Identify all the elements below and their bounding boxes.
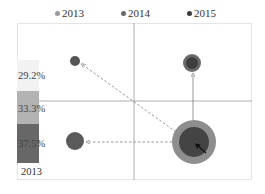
- bar-label-29-2: 29.2%: [18, 70, 45, 82]
- bubble-bottom-left: [66, 132, 84, 150]
- bubble-bottom-right: [172, 120, 216, 164]
- bar-label-37-5: 37.5%: [18, 138, 45, 150]
- arrow-to-top-left: [83, 65, 176, 132]
- bubble-plot: [0, 0, 265, 194]
- bubble-top-left: [70, 56, 80, 66]
- bubble-top-right: [183, 54, 201, 72]
- bar-label-33-3: 33.3%: [18, 103, 45, 115]
- bar-year-label: 2013: [21, 166, 42, 177]
